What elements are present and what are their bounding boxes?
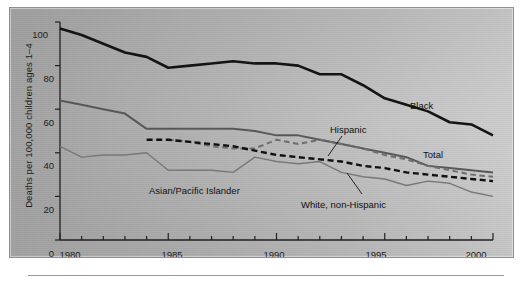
series-label-total: Total — [423, 149, 443, 160]
series-label-asian-pacific-islander: Asian/Pacific Islander — [149, 185, 240, 196]
figure-root: Deaths per 100,000 children ages 1–4 0 2… — [0, 0, 531, 289]
plot-area — [10, 8, 513, 257]
footer-divider — [28, 275, 504, 276]
axis-ticks — [55, 22, 493, 240]
series-line-white-non-hispanic — [147, 140, 493, 181]
axis-lines — [60, 22, 493, 240]
series-line-black — [60, 29, 493, 136]
series-label-white-non-hispanic: White, non-Hispanic — [301, 199, 386, 210]
series-label-black: Black — [410, 100, 433, 111]
series-label-hispanic: Hispanic — [330, 124, 366, 135]
series-paths — [60, 29, 493, 197]
chart-panel: Deaths per 100,000 children ages 1–4 0 2… — [10, 8, 513, 257]
